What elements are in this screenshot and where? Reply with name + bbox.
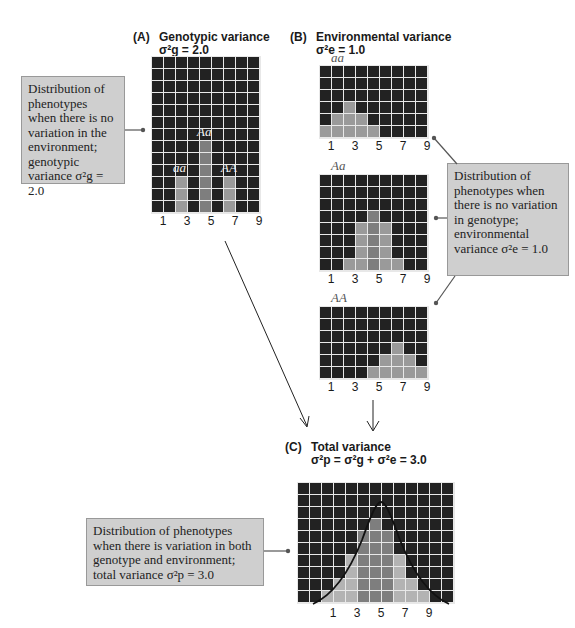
callout-b-dot-bottom xyxy=(434,301,438,305)
callout-b-connector-bottom xyxy=(436,276,455,303)
variance-diagram: (A)Genotypic variance σ²g = 2.0 aa Aa AA… xyxy=(0,0,575,628)
callout-a-dot xyxy=(141,128,145,132)
normal-curve xyxy=(313,502,449,604)
connector-overlay xyxy=(0,0,575,628)
callout-c-dot xyxy=(286,549,290,553)
callout-b-dot-mid xyxy=(434,216,438,220)
arrow-a-to-c xyxy=(225,241,307,426)
callout-b-dot-top xyxy=(432,136,436,140)
callout-b-connector-top xyxy=(434,138,457,164)
